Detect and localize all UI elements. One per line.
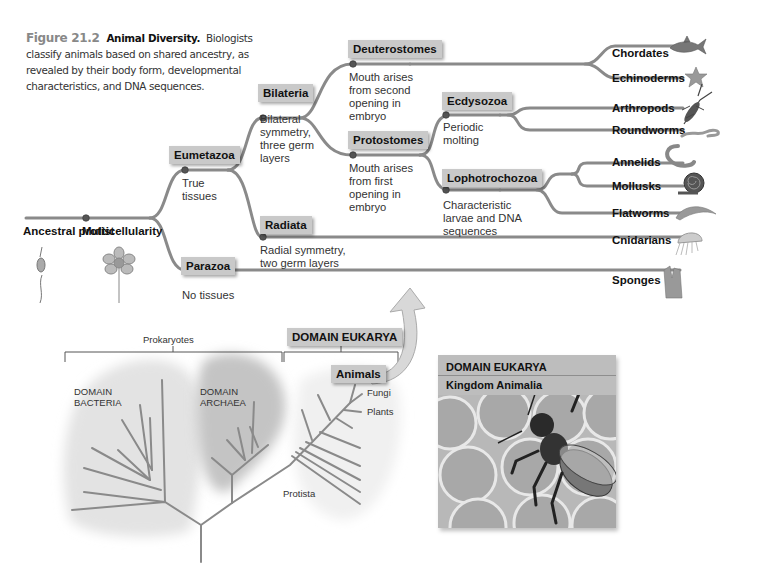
photo-header-divider <box>438 375 616 376</box>
domain-archaea-label: DOMAIN ARCHAEA <box>200 386 246 408</box>
domain-eukarya-label: DOMAIN EUKARYA <box>287 328 402 346</box>
protista-label: Protista <box>283 488 315 499</box>
plants-label: Plants <box>367 406 393 417</box>
domain-archaea-line1: DOMAIN <box>200 386 246 397</box>
domain-bacteria-line1: DOMAIN <box>74 386 122 397</box>
photo-kingdom-label: Kingdom Animalia <box>446 379 542 391</box>
domain-bacteria-line2: BACTERIA <box>74 397 122 408</box>
tree-of-life <box>0 0 760 578</box>
honeybee-photo-panel: DOMAIN EUKARYA Kingdom Animalia <box>438 355 616 528</box>
domain-bacteria-label: DOMAIN BACTERIA <box>74 386 122 408</box>
domain-archaea-line2: ARCHAEA <box>200 397 246 408</box>
animals-label: Animals <box>331 365 386 383</box>
fungi-label: Fungi <box>367 387 391 398</box>
archaea-region <box>197 353 286 491</box>
photo-domain-label: DOMAIN EUKARYA <box>446 361 547 373</box>
prokaryotes-label: Prokaryotes <box>143 334 194 345</box>
